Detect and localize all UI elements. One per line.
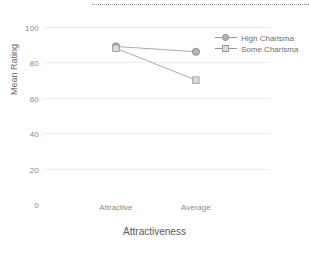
y-axis-title: Mean Rating: [9, 44, 19, 95]
y-tick-label: 0: [34, 201, 39, 210]
series-line: [116, 48, 196, 80]
x-tick-label: Attractive: [99, 203, 132, 212]
legend-label: High Charisma: [241, 34, 294, 43]
legend-item-some-charisma[interactable]: Some Charisma: [215, 44, 309, 54]
y-tick-label: 20: [30, 165, 39, 174]
y-tick-label: 60: [30, 94, 39, 103]
legend-label: Some Charisma: [241, 45, 298, 54]
chart-legend: High Charisma Some Charisma: [215, 33, 309, 55]
data-point-square[interactable]: [193, 77, 199, 83]
y-tick-label: 80: [30, 59, 39, 68]
legend-marker-square-icon: [215, 44, 237, 54]
dotted-divider: [92, 4, 309, 5]
y-tick-label: 100: [25, 24, 39, 33]
data-point-circle[interactable]: [192, 48, 199, 55]
gridline: 0: [44, 204, 270, 205]
x-axis-title: Attractiveness: [0, 226, 309, 237]
data-point-square[interactable]: [113, 45, 119, 51]
y-tick-label: 40: [30, 130, 39, 139]
legend-item-high-charisma[interactable]: High Charisma: [215, 33, 309, 43]
series-line: [116, 46, 196, 51]
legend-marker-circle-icon: [215, 33, 237, 43]
chart-figure: Mean Rating 100806040200 AttractiveAvera…: [0, 0, 309, 253]
x-tick-label: Average: [181, 203, 211, 212]
